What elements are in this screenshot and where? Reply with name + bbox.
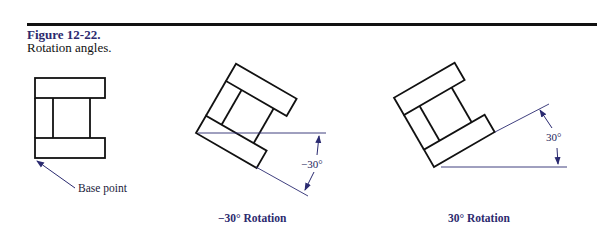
pos30-rotated-line: [495, 104, 549, 132]
pos30-caption: 30° Rotation: [448, 212, 510, 224]
neg30-rotated-line: [256, 167, 308, 196]
base-point-leader: [37, 161, 75, 188]
pos30-arrow-down: [557, 148, 558, 164]
neg30-angle-label: −30°: [301, 158, 323, 170]
neg30-arrow-down: [305, 172, 314, 190]
pos30-angle-label: 30°: [546, 131, 561, 143]
neg30-rotated-shape: [196, 64, 297, 168]
neg30-arrow-up: [317, 136, 319, 155]
pos30-rotated-shape: [394, 63, 495, 167]
original-shape: [35, 78, 105, 158]
base-point-label: Base point: [78, 182, 128, 195]
pos30-arrow-up: [540, 110, 552, 128]
neg30-caption: −30° Rotation: [218, 212, 287, 224]
diagram-canvas: Base point −30° −30° Rotation 30° 30° Ro…: [0, 0, 597, 240]
